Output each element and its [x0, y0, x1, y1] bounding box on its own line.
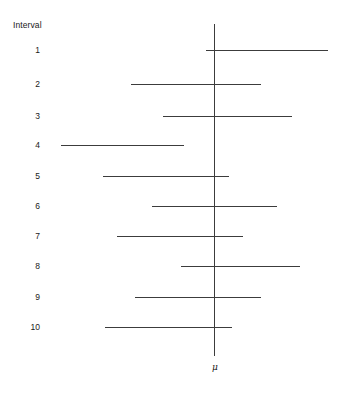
interval-bar — [206, 50, 328, 51]
mu-axis-label: μ — [212, 362, 218, 372]
interval-bar — [103, 176, 229, 177]
interval-row-label: 6 — [0, 201, 40, 211]
interval-row-label: 1 — [0, 45, 40, 55]
interval-row-label: 9 — [0, 292, 40, 302]
interval-bar — [163, 116, 292, 117]
interval-row-label: 8 — [0, 261, 40, 271]
interval-bar — [135, 297, 261, 298]
interval-row-label: 5 — [0, 171, 40, 181]
interval-bar — [131, 84, 261, 85]
interval-row-label: 7 — [0, 231, 40, 241]
confidence-interval-plot: Interval μ 12345678910 — [0, 0, 338, 394]
interval-row-label: 4 — [0, 140, 40, 150]
axis-title-interval: Interval — [13, 20, 42, 30]
interval-row-label: 10 — [0, 322, 40, 332]
interval-bar — [152, 206, 277, 207]
interval-row-label: 3 — [0, 111, 40, 121]
mu-reference-line — [214, 24, 215, 356]
interval-bar — [105, 327, 232, 328]
interval-bar — [61, 145, 184, 146]
interval-row-label: 2 — [0, 79, 40, 89]
interval-bar — [117, 236, 243, 237]
interval-bar — [181, 266, 300, 267]
